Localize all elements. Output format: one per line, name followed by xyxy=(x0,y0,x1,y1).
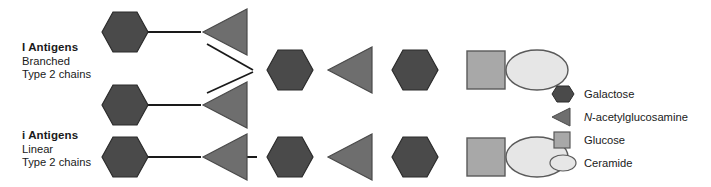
galactose-shape xyxy=(102,137,148,177)
legend-item-galactose: Galactose xyxy=(548,82,708,105)
legend-label: Ceramide xyxy=(584,157,633,169)
legend-label: N-acetylglucosamine xyxy=(584,111,688,123)
square-icon xyxy=(548,129,578,151)
galactose-shape xyxy=(102,85,148,125)
n-acetylglucosamine-shape xyxy=(203,134,247,180)
galactose-shape xyxy=(267,50,313,90)
structure-branched-type-2 xyxy=(102,9,568,128)
n-acetylglucosamine-shape xyxy=(203,82,247,128)
legend-label: Galactose xyxy=(584,88,634,100)
n-acetylglucosamine-shape xyxy=(328,47,372,93)
hexagon-icon xyxy=(548,83,578,105)
n-acetylglucosamine-shape xyxy=(328,134,372,180)
legend-item-n-acetylglucosamine: N-acetylglucosamine xyxy=(548,105,708,128)
galactose-shape xyxy=(102,12,148,52)
legend-item-glucose: Glucose xyxy=(548,128,708,151)
antigen-structure-figure: I Antigens Branched Type 2 chains i Anti… xyxy=(0,0,711,187)
legend-label: Glucose xyxy=(584,134,625,146)
n-acetylglucosamine-shape xyxy=(203,9,247,55)
bond-lines xyxy=(147,32,505,157)
galactose-shape xyxy=(392,137,438,177)
glucose-shape xyxy=(467,138,505,176)
galactose-shape xyxy=(392,50,438,90)
backbone xyxy=(267,47,568,93)
triangle-icon xyxy=(548,106,578,128)
legend-label-rest: -acetylglucosamine xyxy=(592,111,688,123)
legend-item-ceramide: Ceramide xyxy=(548,151,708,174)
glucose-shape xyxy=(467,51,505,89)
ellipse-icon xyxy=(548,152,578,174)
galactose-shape xyxy=(267,137,313,177)
legend: Galactose N-acetylglucosamine Glucose xyxy=(548,82,708,174)
legend-label-italic-prefix: N xyxy=(584,111,592,123)
